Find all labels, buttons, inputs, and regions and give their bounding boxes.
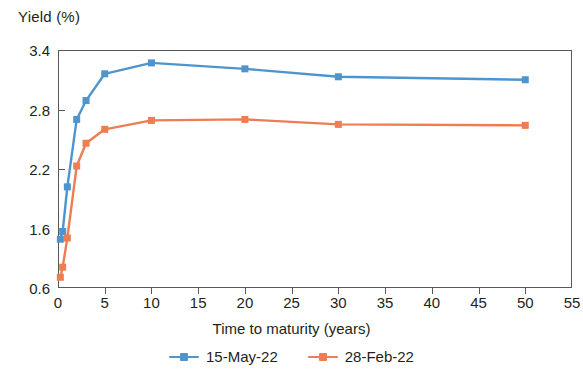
yield-curve-chart: Yield (%) 0.61.62.22.83.4 05101520253035… <box>0 0 583 375</box>
y-axis-title: Yield (%) <box>18 8 80 25</box>
y-axis-tick-mark <box>58 110 65 111</box>
legend-item-2[interactable]: 28-Feb-22 <box>308 348 414 365</box>
x-axis-title: Time to maturity (years) <box>0 320 583 337</box>
y-axis-tick-label: 2.2 <box>6 161 50 178</box>
chart-legend: 15-May-2228-Feb-22 <box>0 348 583 365</box>
x-axis-tick-label: 30 <box>318 294 358 311</box>
x-axis-tick-mark <box>525 288 526 294</box>
legend-item-1[interactable]: 15-May-22 <box>169 348 278 365</box>
x-axis-tick-mark <box>105 288 106 294</box>
legend-label: 28-Feb-22 <box>345 348 414 365</box>
x-axis-tick-mark <box>245 288 246 294</box>
legend-label: 15-May-22 <box>206 348 278 365</box>
x-axis-tick-label: 45 <box>459 294 499 311</box>
x-axis-tick-label: 25 <box>272 294 312 311</box>
x-axis-tick-label: 20 <box>225 294 265 311</box>
legend-swatch-icon <box>308 351 338 363</box>
x-axis-tick-mark <box>292 288 293 294</box>
x-axis-tick-mark <box>151 288 152 294</box>
legend-swatch-icon <box>169 351 199 363</box>
x-axis-tick-label: 15 <box>178 294 218 311</box>
x-axis-tick-label: 50 <box>505 294 545 311</box>
y-axis-tick-mark <box>58 169 65 170</box>
x-axis-tick-label: 55 <box>552 294 583 311</box>
x-axis-tick-label: 35 <box>365 294 405 311</box>
y-axis-tick-label: 3.4 <box>6 42 50 59</box>
y-axis-tick-label: 1.6 <box>6 220 50 237</box>
x-axis-tick-mark <box>338 288 339 294</box>
y-axis-tick-label: 2.8 <box>6 101 50 118</box>
x-axis-tick-label: 40 <box>412 294 452 311</box>
x-axis-tick-mark <box>198 288 199 294</box>
x-axis-tick-label: 0 <box>38 294 78 311</box>
y-axis-tick-mark <box>58 229 65 230</box>
x-axis-tick-mark <box>479 288 480 294</box>
x-axis-tick-label: 5 <box>85 294 125 311</box>
x-axis-tick-label: 10 <box>131 294 171 311</box>
plot-area <box>58 50 572 288</box>
x-axis-tick-mark <box>432 288 433 294</box>
x-axis-tick-mark <box>385 288 386 294</box>
